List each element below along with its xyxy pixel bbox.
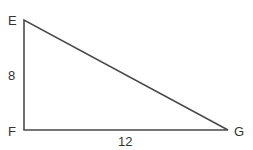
side-label-fg: 12	[118, 134, 132, 149]
vertex-label-e: E	[8, 13, 17, 28]
side-label-ef: 8	[8, 68, 15, 83]
triangle-efg	[24, 20, 228, 130]
vertex-label-g: G	[234, 124, 244, 139]
vertex-label-f: F	[8, 124, 16, 139]
triangle-diagram: E 8 F 12 G	[0, 0, 253, 150]
